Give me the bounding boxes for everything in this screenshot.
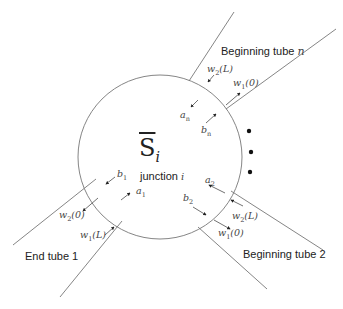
junction-circle xyxy=(78,75,242,239)
label-w1-0-tube2: w1(0) xyxy=(218,228,244,240)
label-bn: bn xyxy=(201,125,211,137)
arrow-w1L-tube1 xyxy=(105,227,114,235)
label-a1: a1 xyxy=(136,186,146,198)
label-b1: b1 xyxy=(117,169,127,181)
ellipsis-dot-3 xyxy=(248,170,252,174)
tube-n-label: Beginning tube n xyxy=(221,46,305,57)
label-w2L-tuben: w2(L) xyxy=(207,64,233,76)
label-w1-0-tuben: w1(0) xyxy=(233,78,259,90)
label-a2: a2 xyxy=(205,175,215,187)
junction-label: junction i xyxy=(140,171,184,182)
tube-n-wall-lower xyxy=(226,29,336,109)
arrow-w2L-tube2 xyxy=(231,200,243,206)
arrow-an xyxy=(191,100,198,107)
junction-symbol: Si xyxy=(139,136,160,164)
label-w2L-tube2: w2(L) xyxy=(232,211,258,223)
tube-2-label: Beginning tube 2 xyxy=(243,249,326,260)
ellipsis-dot-2 xyxy=(249,150,253,154)
arrow-bn xyxy=(206,114,216,123)
ellipsis-dot-1 xyxy=(247,129,251,133)
label-w2-0-tube1: w2(0) xyxy=(59,210,85,222)
tube-1-label: End tube 1 xyxy=(25,251,78,262)
arrow-w1-0-tuben xyxy=(226,93,240,105)
label-b2: b2 xyxy=(183,193,193,205)
arrow-b2 xyxy=(193,207,206,215)
arrow-a1 xyxy=(121,193,130,200)
arrow-b1 xyxy=(106,177,115,184)
label-w1L-tube1: w1(L) xyxy=(80,230,106,242)
label-an: an xyxy=(180,110,190,122)
junction-diagram: Si junction i Beginning tube n End tube … xyxy=(0,0,343,309)
